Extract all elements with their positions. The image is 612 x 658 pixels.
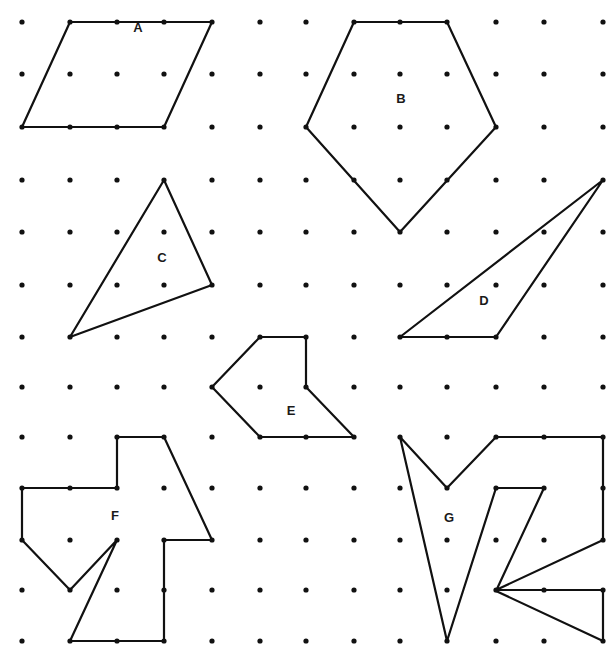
grid-dot [19,19,24,24]
grid-dot [209,587,214,592]
label-d: D [479,293,488,308]
grid-dot [351,282,356,287]
grid-dot [209,124,214,129]
grid-dot [600,229,605,234]
grid-dot [444,587,449,592]
grid-dot [600,334,605,339]
grid-dot [257,282,262,287]
grid-dot [303,19,308,24]
grid-dot [351,71,356,76]
grid-dot [351,537,356,542]
grid-dot [444,124,449,129]
grid-dot [493,384,498,389]
grid-dot [303,177,308,182]
grid-dot [351,334,356,339]
grid-dot [493,19,498,24]
grid-dot [303,71,308,76]
grid-dot [600,71,605,76]
grid-dot [209,71,214,76]
grid-dot [257,229,262,234]
dot-grid-diagram: A B C D E F G [0,0,612,658]
grid-dot [209,434,214,439]
grid-dot [541,334,546,339]
grid-dot [257,177,262,182]
grid-dot [303,229,308,234]
grid-dot [541,177,546,182]
grid-dot [600,19,605,24]
grid-dot [161,71,166,76]
grid-dot [161,229,166,234]
grid-dot [303,537,308,542]
grid-dot [600,124,605,129]
grid-dot [397,71,402,76]
grid-dot [257,384,262,389]
label-c: C [157,250,167,265]
grid-dot [600,282,605,287]
grid-dot [493,638,498,643]
grid-dot [209,485,214,490]
grid-dot [161,384,166,389]
grid-dot [444,537,449,542]
grid-dot [67,434,72,439]
label-e: E [287,403,296,418]
grid-dot [493,537,498,542]
grid-dot [257,124,262,129]
grid-dot [351,124,356,129]
grid-dot [19,434,24,439]
grid-dot [444,71,449,76]
grid-dot [67,282,72,287]
grid-dot [19,334,24,339]
grid-dot [67,177,72,182]
grid-dot [541,282,546,287]
grid-dot [209,638,214,643]
grid-dot [161,334,166,339]
grid-dot [209,177,214,182]
grid-dot [114,587,119,592]
grid-dot [397,124,402,129]
grid-dot [351,587,356,592]
grid-dot [351,384,356,389]
grid-dot [19,229,24,234]
grid-dot [257,587,262,592]
grid-dot [114,177,119,182]
grid-dot [19,587,24,592]
grid-dot [114,282,119,287]
grid-dot [397,177,402,182]
grid-dot [397,587,402,592]
grid-dot [303,282,308,287]
grid-dot [114,71,119,76]
label-f: F [111,508,119,523]
grid-dot [600,384,605,389]
shape-e [212,337,354,437]
shape-g [400,437,603,641]
grid-dot [257,485,262,490]
grid-dot [19,282,24,287]
grid-dot [257,19,262,24]
grid-dot [493,229,498,234]
shape-d [400,180,603,337]
grid-dot [67,229,72,234]
grid-dot [541,19,546,24]
grid-dot [397,485,402,490]
grid-dot [541,229,546,234]
label-b: B [396,91,405,106]
grid-dot [397,638,402,643]
grid-dot [397,537,402,542]
grid-dot [493,282,498,287]
grid-dot [444,282,449,287]
shape-c [70,180,212,337]
grid-dot [114,384,119,389]
grid-dot [19,177,24,182]
grid-dot [114,334,119,339]
grid-dot [257,537,262,542]
grid-dot [493,71,498,76]
grid-dot [161,485,166,490]
grid-dot [19,384,24,389]
grid-dot [114,229,119,234]
grid-dot [209,229,214,234]
shape-labels: A B C D E F G [111,20,489,525]
grid-dot [397,282,402,287]
grid-dot [541,384,546,389]
grid-dot [19,71,24,76]
shape-f [22,437,212,641]
